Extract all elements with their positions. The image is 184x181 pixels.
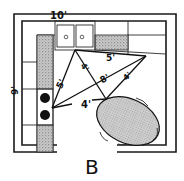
- label-sink-stove: 5': [54, 78, 67, 90]
- kitchen-plan: 10' 9' 5' 5' 4' 8' 4' 4' B: [0, 0, 184, 181]
- diagram-title: B: [85, 155, 99, 179]
- top-counter: [95, 35, 128, 50]
- double-sink: [55, 21, 95, 50]
- label-sink-fridge: 5': [106, 53, 115, 63]
- label-stove-table: 4': [81, 99, 91, 110]
- burner-icon: [40, 110, 50, 120]
- drain-icon: [80, 35, 84, 39]
- dim-left-wall: 9': [10, 86, 20, 95]
- dim-top-wall: 10': [50, 10, 67, 21]
- drain-icon: [64, 35, 68, 39]
- left-counter-upper: [37, 35, 53, 89]
- burner-icon: [40, 93, 50, 103]
- cooktop: [37, 89, 53, 125]
- left-counter-lower: [37, 125, 53, 152]
- label-stove-fridge: 8': [98, 72, 111, 85]
